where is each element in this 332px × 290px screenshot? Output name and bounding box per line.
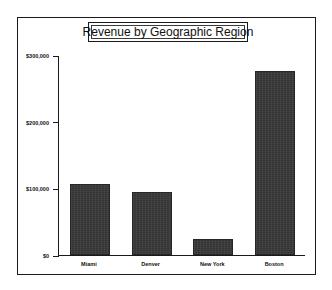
- x-tick-label-boston: Boston: [265, 261, 284, 267]
- chart-title-box: Revenue by Geographic Region: [88, 22, 248, 42]
- bar-miami: [70, 184, 110, 255]
- bar-new-york: [193, 239, 233, 255]
- x-tick-label-miami: Miami: [81, 261, 97, 267]
- x-tick-label-new-york: New York: [200, 261, 225, 267]
- y-tick-0: [53, 256, 59, 257]
- y-tick-1: [53, 189, 59, 190]
- chart-title-inner-border: Revenue by Geographic Region: [91, 25, 245, 39]
- y-tick-3: [53, 56, 59, 57]
- y-tick-label-2: $200,000: [26, 120, 49, 126]
- page-title: Revenue by Geographic Region: [83, 25, 254, 39]
- plot-area: [58, 56, 305, 256]
- chart-figure: Revenue by Geographic Region $0 $100,000…: [0, 0, 332, 290]
- bar-denver: [132, 192, 172, 255]
- y-tick-label-0: $0: [43, 253, 49, 259]
- x-tick-label-denver: Denver: [141, 261, 160, 267]
- y-tick-2: [53, 122, 59, 123]
- y-tick-label-3: $300,000: [26, 53, 49, 59]
- y-tick-label-1: $100,000: [26, 186, 49, 192]
- bar-boston: [255, 71, 295, 255]
